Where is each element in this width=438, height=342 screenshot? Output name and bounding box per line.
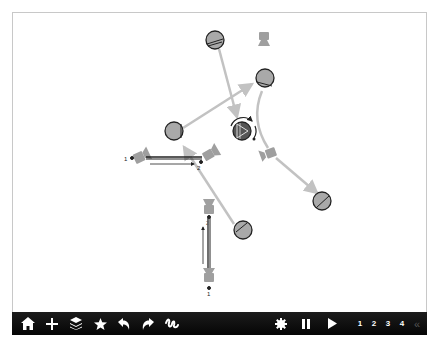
squiggle-icon (165, 318, 179, 329)
speaker-node-vertical-top[interactable] (203, 199, 215, 214)
speaker-node-vertical-bottom[interactable] (203, 268, 215, 282)
speaker-node-left-start[interactable] (132, 146, 152, 165)
layers-icon (70, 317, 82, 330)
favorite-button[interactable] (88, 312, 112, 335)
pause-button[interactable] (293, 312, 319, 335)
gear-icon (275, 318, 287, 330)
arrow-top-to-center (219, 49, 237, 117)
plus-icon (46, 318, 58, 330)
bottom-toolbar: 1 2 3 4 « (12, 312, 427, 335)
label-vertical-bottom: 1 (207, 291, 211, 297)
pause-icon (302, 319, 310, 329)
home-button[interactable] (16, 312, 40, 335)
node-bottom[interactable] (234, 221, 252, 239)
connection-arrows (183, 49, 317, 224)
play-button[interactable] (319, 312, 345, 335)
speaker-node-top-right[interactable] (258, 32, 270, 46)
page-2-button[interactable]: 2 (367, 312, 381, 335)
label-left-start: 1 (124, 156, 128, 162)
redo-icon (142, 318, 154, 330)
redo-button[interactable] (136, 312, 160, 335)
diagram-canvas[interactable]: 1 2 2 1 (0, 0, 438, 312)
layers-button[interactable] (64, 312, 88, 335)
node-top[interactable] (206, 31, 224, 49)
arrow-right-curve (257, 91, 268, 148)
undo-icon (118, 318, 130, 330)
arrow-to-lower-right (276, 158, 317, 193)
play-icon (328, 318, 337, 329)
node-left[interactable] (165, 122, 183, 140)
collapse-toolbar-button[interactable]: « (409, 312, 425, 335)
add-button[interactable] (40, 312, 64, 335)
page-3-button[interactable]: 3 (381, 312, 395, 335)
node-center-rotator[interactable] (231, 118, 256, 141)
home-icon (21, 317, 35, 330)
star-icon (94, 318, 107, 330)
node-upper-right[interactable] (256, 69, 274, 87)
label-vertical-top: 2 (206, 220, 209, 226)
page-4-button[interactable]: 4 (395, 312, 409, 335)
settings-button[interactable] (269, 312, 293, 335)
draw-button[interactable] (160, 312, 184, 335)
page-1-button[interactable]: 1 (353, 312, 367, 335)
speaker-node-left-end[interactable] (200, 143, 221, 163)
undo-button[interactable] (112, 312, 136, 335)
node-lower-right[interactable] (313, 192, 331, 210)
